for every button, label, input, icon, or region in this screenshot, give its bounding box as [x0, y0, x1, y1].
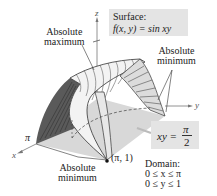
absolute-maximum-label: Absolute maximum	[44, 27, 85, 47]
surface-equation: f(x, y) = sin xy	[113, 24, 171, 34]
point-label: (π, 1)	[111, 153, 133, 163]
surface-equation-box: Surface: f(x, y) = sin xy	[109, 9, 188, 36]
absolute-minimum-bottom-label: Absolute minimum	[58, 163, 97, 183]
y-axis-label: y	[195, 100, 199, 110]
absolute-minimum-right-label: Absolute minimum	[157, 46, 196, 66]
z-axis-label: z	[95, 8, 99, 18]
level-curve-numerator: π	[183, 123, 189, 135]
pi-tick-label: π	[25, 133, 30, 143]
figure: Surface: f(x, y) = sin xy Absolute maxim…	[0, 0, 217, 196]
x-axis-label: x	[12, 150, 16, 160]
domain-label: Domain: 0 ≤ x ≤ π 0 ≤ y ≤ 1	[145, 159, 181, 189]
surface-title: Surface:	[113, 12, 146, 22]
level-curve-lhs: xy =	[157, 130, 177, 142]
level-curve-box: xy = π 2	[151, 121, 199, 149]
level-curve-denominator: 2	[184, 136, 190, 148]
